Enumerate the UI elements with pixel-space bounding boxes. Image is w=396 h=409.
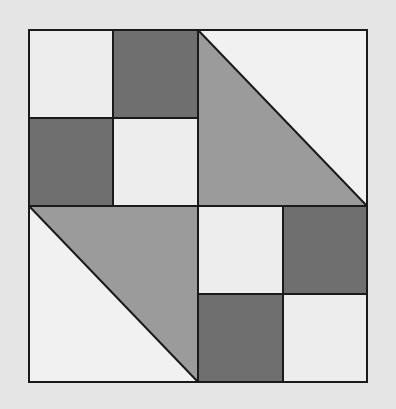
quilt-block-diagram	[0, 0, 396, 409]
patch-light	[283, 294, 367, 382]
patch-dark	[29, 118, 113, 206]
patch-dark	[283, 206, 367, 294]
patch-dark	[198, 294, 283, 382]
patch-dark	[113, 30, 198, 118]
patch-light	[113, 118, 198, 206]
patch-light	[198, 206, 283, 294]
patch-light	[29, 30, 113, 118]
